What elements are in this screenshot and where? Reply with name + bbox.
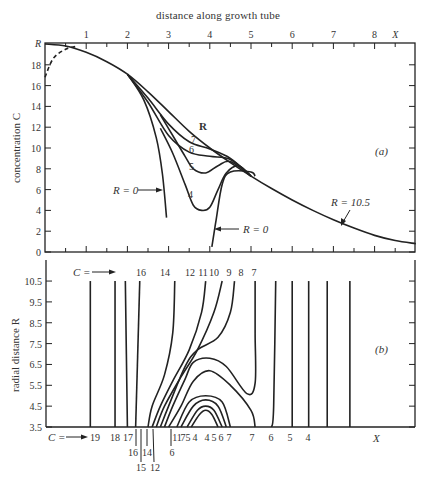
x-tick-label: X	[391, 29, 399, 40]
y-tick-label: 4	[36, 205, 41, 216]
panel-b-x-end-label: X	[372, 432, 381, 444]
contour-label: 7	[227, 432, 232, 443]
y-tick-label: 8	[36, 164, 41, 175]
contour-label: 11	[198, 267, 208, 278]
panel-b-top-labels: 1614121110987	[136, 267, 257, 278]
contour-line	[164, 281, 255, 427]
curve-label-4: 4	[188, 189, 193, 200]
contour-label: 6	[219, 432, 224, 443]
leader-line	[153, 429, 154, 462]
curve	[45, 46, 78, 77]
y-tick-label: 5.5	[30, 380, 43, 391]
contour-label: 16	[128, 447, 138, 458]
panel-a-frame	[45, 43, 415, 252]
y-tick-label: 2	[36, 226, 41, 237]
contour-label: 5	[212, 432, 217, 443]
panel-b-label: (b)	[375, 343, 388, 356]
contour-line	[156, 281, 222, 427]
curve-label-6: 6	[189, 144, 194, 155]
panel-b: 10.59.58.57.56.55.54.53.5 radial distanc…	[9, 260, 415, 473]
contour-label: 4	[193, 432, 198, 443]
x-tick-label: 3	[166, 29, 171, 40]
contour-line	[272, 281, 276, 427]
r105-label: R = 10.5	[330, 196, 370, 208]
y-tick-label: 6.5	[30, 359, 43, 370]
contour-label: 6	[170, 447, 175, 458]
y-tick-label: 18	[31, 60, 41, 71]
y-tick-label: 12	[31, 122, 41, 133]
contour-label: 18	[110, 432, 120, 443]
contour-label: 19	[90, 432, 100, 443]
contour-label: 8	[239, 267, 244, 278]
y-tick-label: 8.5	[30, 318, 43, 329]
contour-label: 7	[250, 432, 255, 443]
c-equals-bottom: C =	[48, 431, 66, 443]
x-tick-label: 8	[372, 29, 377, 40]
x-tick-label: 5	[249, 29, 254, 40]
y-tick-label: 10.5	[25, 276, 43, 287]
contour-line	[125, 281, 127, 427]
panel-a-x-ticks: 12345678X	[66, 29, 400, 252]
arrowhead-icon	[109, 270, 116, 275]
panel-a-y-axis-label: concentration C	[10, 113, 22, 183]
contour-label: 10	[209, 267, 219, 278]
panel-a-y-ticks: 024681012141618R	[31, 38, 415, 258]
x-tick-label: 4	[207, 29, 212, 40]
y-tick-label: 6	[36, 185, 41, 196]
curve	[212, 171, 255, 247]
panel-a-curves	[45, 44, 416, 247]
contour-label: 16	[136, 267, 146, 278]
panel-b-bottom-labels: 1918171175445677654161461512	[90, 429, 311, 473]
contour-label: 5	[288, 432, 293, 443]
x-tick-label: 1	[84, 29, 89, 40]
x-tick-label: 2	[125, 29, 130, 40]
contour-label: 12	[185, 267, 195, 278]
panel-b-y-axis-label: radial distance R	[9, 317, 21, 392]
contour-label: 12	[150, 462, 160, 473]
x-tick-label: 6	[290, 29, 295, 40]
contour-label: 15	[136, 462, 146, 473]
y-tick-label: 14	[31, 101, 41, 112]
contour-line	[152, 281, 206, 427]
r0-right-label: R = 0	[242, 223, 269, 235]
arrowhead-icon	[156, 188, 163, 193]
contour-label: 17	[123, 432, 133, 443]
y-tick-label: 10	[31, 143, 41, 154]
contour-label: 4	[205, 432, 210, 443]
contour-label: 5	[186, 432, 191, 443]
y-tick-label: R	[34, 38, 41, 49]
r0-left-label: R = 0	[112, 184, 139, 196]
y-tick-label: 7.5	[30, 339, 43, 350]
contour-label: 6	[269, 432, 274, 443]
contour-line	[136, 281, 140, 427]
y-tick-label: 4.5	[30, 401, 43, 412]
contour-label: 14	[142, 447, 152, 458]
y-tick-label: 0	[36, 247, 41, 258]
contour-label: 9	[227, 267, 232, 278]
y-tick-label: 16	[31, 81, 41, 92]
arrowhead-icon	[81, 435, 88, 440]
curve-label-5: 5	[189, 161, 194, 172]
contour-label: 7	[252, 267, 257, 278]
x-tick-label: 7	[331, 29, 336, 40]
y-tick-label: 3.5	[30, 422, 43, 433]
contour-label: 4	[306, 432, 311, 443]
contour-line	[169, 371, 256, 427]
figure-canvas: 12345678X 024681012141618R concentration…	[0, 0, 436, 481]
curve-label-r: R	[199, 120, 208, 132]
contour-label: 14	[160, 267, 170, 278]
c-equals-top: C =	[73, 266, 91, 278]
panel-a-label: (a)	[375, 145, 388, 158]
panel-b-contours	[90, 281, 350, 427]
curve	[45, 44, 416, 244]
y-tick-label: 9.5	[30, 297, 43, 308]
panel-a: 12345678X 024681012141618R concentration…	[10, 29, 416, 258]
